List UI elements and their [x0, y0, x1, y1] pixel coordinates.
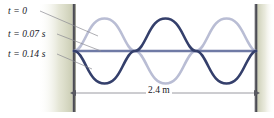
wave-diagram-canvas: [0, 0, 274, 118]
label-time-t014: t = 0.14 s: [8, 49, 46, 59]
dimension-label-length: 2.4 m: [146, 85, 172, 95]
label-time-t0: t = 0: [8, 6, 27, 16]
standing-wave-figure: t = 0 t = 0.07 s t = 0.14 s 2.4 m: [0, 0, 274, 118]
right-wall-shadow: [256, 4, 274, 112]
right-support-post: [255, 4, 258, 112]
label-time-t007: t = 0.07 s: [8, 29, 46, 39]
left-support-post: [73, 4, 76, 112]
